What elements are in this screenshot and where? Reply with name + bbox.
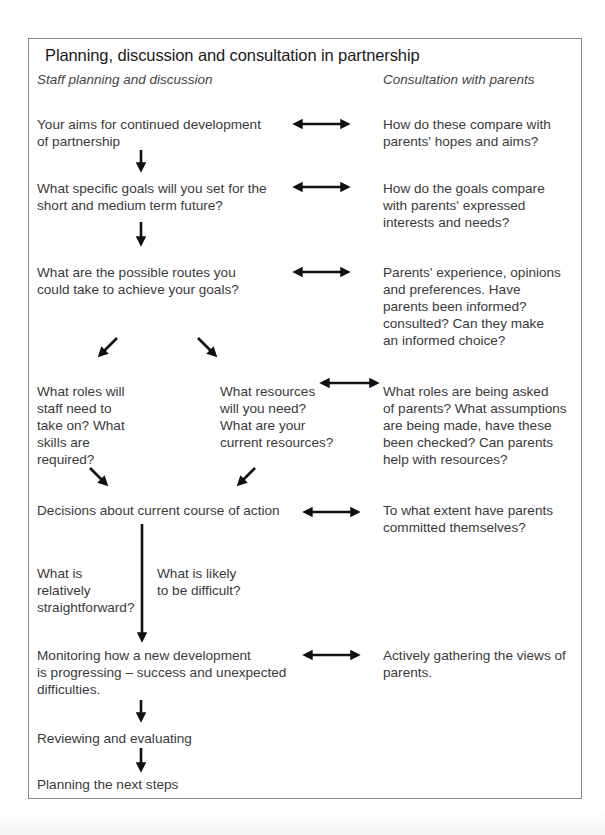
arrows-layer — [0, 0, 605, 835]
diagonal-arrow-down-right-icon — [90, 468, 105, 483]
diagonal-arrow-down-left-icon — [101, 338, 117, 354]
diagonal-arrow-down-left-icon — [240, 468, 255, 483]
diagonal-arrow-down-right-icon — [198, 338, 214, 354]
page-bleed-through — [0, 808, 605, 835]
